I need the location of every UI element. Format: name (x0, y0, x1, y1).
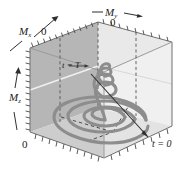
annotation-t-equals-tau: t = T (62, 61, 80, 70)
axis-arrow-my (92, 12, 143, 18)
axis-origin-my: 0 (110, 17, 116, 28)
annotation-t-equals-zero: t = 0 (152, 139, 172, 149)
axis-label-mz: Mz (9, 92, 21, 104)
axis-origin-mx: 0 (41, 26, 47, 37)
axis-origin-mz: 0 (22, 139, 28, 150)
tick-group-mz (26, 51, 30, 130)
figure-canvas: Mx 0 My 0 Mz 0 t = T t = 0 (0, 0, 185, 185)
axis-label-mx: Mx (19, 26, 31, 38)
